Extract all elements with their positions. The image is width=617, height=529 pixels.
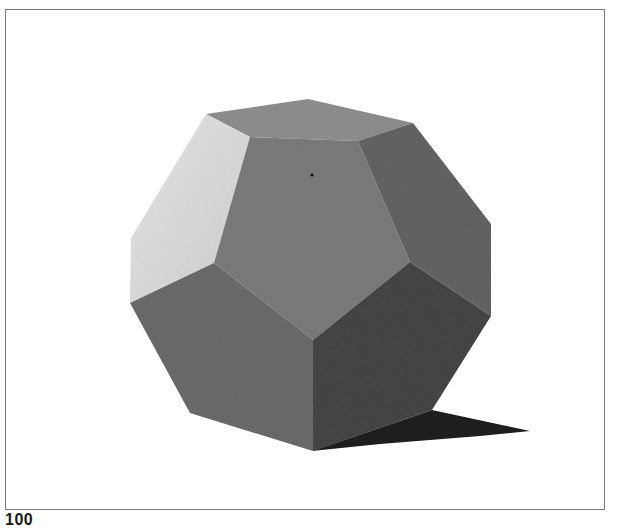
- page-number: 100: [5, 511, 33, 529]
- dodecahedron-illustration: [0, 0, 617, 529]
- surface-dot: [310, 173, 313, 176]
